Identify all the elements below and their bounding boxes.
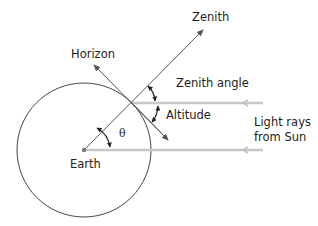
theta-label: θ	[119, 127, 126, 140]
light-rays-label-line1: Light rays	[254, 116, 311, 129]
altitude-label: Altitude	[166, 109, 211, 122]
horizon-label: Horizon	[71, 48, 115, 61]
altitude-arc	[152, 106, 158, 122]
zenith-angle-label: Zenith angle	[176, 77, 249, 90]
zenith-label: Zenith	[192, 11, 229, 24]
earth-label: Earth	[70, 158, 101, 171]
light-rays-label-line2: from Sun	[254, 131, 306, 144]
zenith-angle-arc	[148, 86, 155, 101]
light-ray-lower	[84, 147, 263, 153]
earth-center-dot	[82, 148, 86, 152]
earth-sun-angle-diagram	[0, 0, 318, 226]
light-ray-upper	[132, 100, 263, 106]
horizon-tail	[132, 103, 168, 140]
